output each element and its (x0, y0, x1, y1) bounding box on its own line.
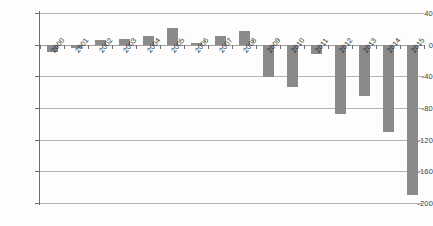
x-tick-mark (352, 45, 353, 49)
x-tick-mark (40, 45, 41, 49)
x-tick-mark (88, 45, 89, 49)
x-tick-mark (136, 45, 137, 49)
x-tick-mark (232, 45, 233, 49)
bar-2014 (383, 45, 394, 132)
x-tick-mark (160, 45, 161, 49)
x-tick-mark (280, 45, 281, 49)
bar-2012 (335, 45, 346, 114)
x-tick-mark (376, 45, 377, 49)
x-tick-mark (184, 45, 185, 49)
bar-chart: 400-40-80-120-160-200 200020012002200320… (0, 0, 433, 226)
x-tick-mark (304, 45, 305, 49)
x-tick-mark (256, 45, 257, 49)
bar-2015 (407, 45, 418, 195)
gridline-40 (40, 13, 424, 14)
gridline--120 (40, 140, 424, 141)
x-tick-mark (64, 45, 65, 49)
x-tick-mark (400, 45, 401, 49)
x-tick-mark (112, 45, 113, 49)
gridline--80 (40, 108, 424, 109)
x-tick-mark (208, 45, 209, 49)
x-tick-mark (424, 45, 425, 49)
x-tick-mark (328, 45, 329, 49)
gridline--160 (40, 171, 424, 172)
gridline--200 (40, 203, 424, 204)
